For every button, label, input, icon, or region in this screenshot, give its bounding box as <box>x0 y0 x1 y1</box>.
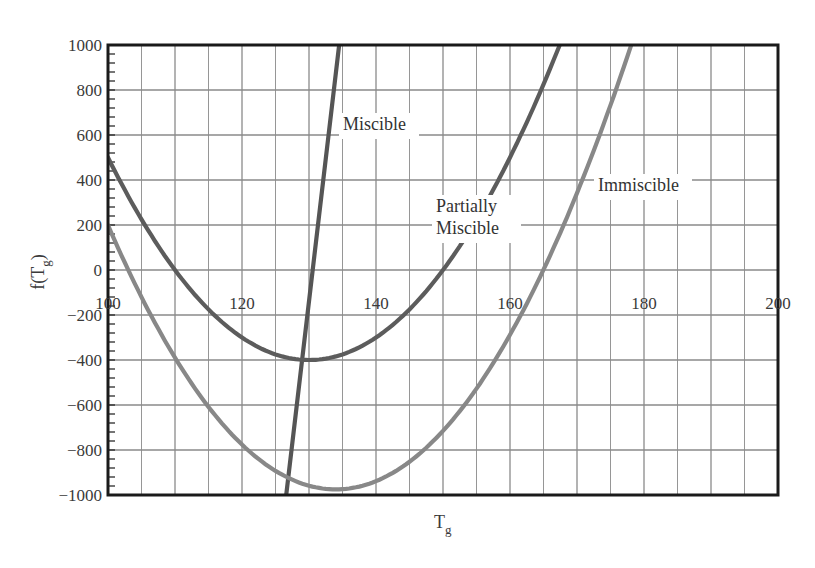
curve-labels: MisciblePartiallyMiscibleImmiscible <box>339 113 692 243</box>
y-tick-label: 0 <box>94 261 103 280</box>
y-tick-label: −600 <box>67 396 102 415</box>
x-tick-label: 200 <box>765 294 791 313</box>
y-tick-label: 200 <box>77 216 103 235</box>
x-tick-label: 100 <box>95 294 121 313</box>
y-tick-label: 400 <box>77 171 103 190</box>
x-tick-label: 140 <box>363 294 389 313</box>
x-axis-label: Tg <box>434 512 452 537</box>
x-tick-label: 160 <box>497 294 523 313</box>
curve-label-partially-miscible: Miscible <box>436 218 499 238</box>
y-tick-labels: 10008006004002000−200−400−600−800−1000 <box>58 36 102 505</box>
x-tick-label: 180 <box>631 294 657 313</box>
curve-immiscible <box>108 37 634 490</box>
chart: MisciblePartiallyMiscibleImmiscible 1000… <box>0 0 815 568</box>
x-tick-label: 120 <box>229 294 255 313</box>
y-tick-label: 600 <box>77 126 103 145</box>
y-tick-label: −1000 <box>58 486 102 505</box>
curve-label-partially-miscible: Partially <box>436 196 497 216</box>
y-axis-label: f(Tg) <box>28 254 53 289</box>
y-tick-label: −800 <box>67 441 102 460</box>
y-tick-label: −400 <box>67 351 102 370</box>
curve-label-immiscible: Immiscible <box>598 175 679 195</box>
curves <box>108 35 634 495</box>
curve-label-miscible: Miscible <box>343 114 406 134</box>
y-tick-label: 1000 <box>68 36 102 55</box>
y-tick-label: 800 <box>77 81 103 100</box>
